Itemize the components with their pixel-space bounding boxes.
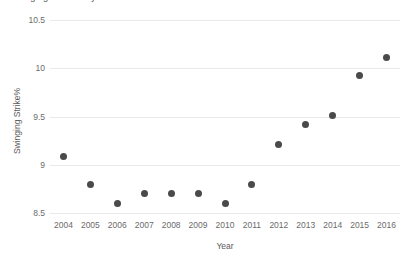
y-axis-tick-labels: 10.5109.598.5 [0, 20, 45, 213]
y-axis-tick-label: 9 [40, 160, 45, 170]
x-axis-tick-label: 2014 [323, 220, 342, 230]
x-axis-tick-label: 2005 [81, 220, 100, 230]
chart-figure: Swinging Strike% by Year Swinging Strike… [0, 0, 410, 265]
y-axis-tick-label: 10.5 [28, 15, 45, 25]
data-point[interactable] [60, 153, 67, 160]
plot-area [50, 20, 400, 213]
x-axis-tick-label: 2008 [162, 220, 181, 230]
gridline [50, 117, 400, 118]
gridline [50, 68, 400, 69]
data-point[interactable] [141, 190, 148, 197]
x-axis-label: Year [50, 241, 400, 251]
gridline [50, 213, 400, 214]
y-axis-tick-label: 10 [36, 63, 45, 73]
data-point[interactable] [356, 72, 363, 79]
data-point[interactable] [383, 54, 390, 61]
y-axis-tick-label: 9.5 [33, 112, 45, 122]
data-point[interactable] [168, 190, 175, 197]
x-axis-tick-label: 2013 [296, 220, 315, 230]
x-axis-tick-label: 2009 [189, 220, 208, 230]
y-axis-tick-label: 8.5 [33, 208, 45, 218]
data-point[interactable] [87, 181, 94, 188]
data-point[interactable] [222, 200, 229, 207]
data-point[interactable] [275, 141, 282, 148]
chart-title: Swinging Strike% by Year [10, 0, 117, 2]
data-point[interactable] [114, 200, 121, 207]
x-axis-tick-label: 2011 [243, 220, 261, 230]
x-axis-tick-label: 2010 [216, 220, 235, 230]
x-axis-tick-label: 2007 [135, 220, 154, 230]
x-axis-tick-labels: 2004200520062007200820092010201120122013… [50, 220, 400, 234]
data-point[interactable] [248, 181, 255, 188]
data-point[interactable] [195, 190, 202, 197]
x-axis-tick-label: 2016 [377, 220, 396, 230]
gridline [50, 20, 400, 21]
x-axis-tick-label: 2012 [269, 220, 288, 230]
data-point[interactable] [329, 112, 336, 119]
x-axis-tick-label: 2006 [108, 220, 127, 230]
data-point[interactable] [302, 121, 309, 128]
x-axis-tick-label: 2015 [350, 220, 369, 230]
x-axis-tick-label: 2004 [54, 220, 73, 230]
gridline [50, 165, 400, 166]
